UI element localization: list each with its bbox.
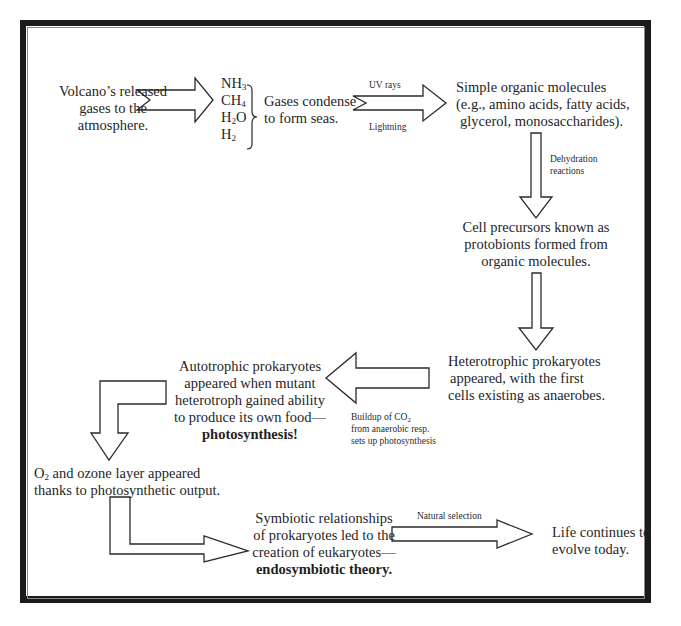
brace-icon [245, 84, 259, 150]
endosymbiotic-emphasis: endosymbiotic theory. [256, 561, 392, 577]
autotrophs-line-1: Autotrophic prokaryotes [170, 358, 330, 375]
life-line-2: evolve today. [552, 541, 650, 558]
gas-h2: H2 [221, 126, 246, 143]
dehydration-line-2: reactions [550, 165, 598, 177]
oxygen-line-2: thanks to photosynthetic output. [34, 482, 220, 499]
label-lightning: Lightning [369, 121, 406, 133]
organic-line-3: glycerol, monosaccharides). [456, 113, 630, 130]
co2-line-3: sets up photosynthesis [351, 435, 436, 447]
heterotrophs-line-1: Heterotrophic prokaryotes [448, 353, 605, 370]
node-condense: Gases condense to form seas. [264, 93, 356, 127]
volcano-line-1: Volcano’s released [58, 83, 168, 100]
node-protobionts: Cell precursors known as protobionts for… [456, 219, 616, 270]
volcano-line-2: gases to the [58, 100, 168, 117]
co2-line-2: from anaerobic resp. [351, 423, 436, 435]
symbiotic-line-3: creation of eukaryotes— [244, 544, 404, 561]
arrow-autotrophs-to-oxygen [91, 381, 166, 460]
node-heterotrophs: Heterotrophic prokaryotes appeared, with… [448, 353, 605, 404]
node-gas-list: NH3 CH4 H2O H2 [221, 75, 246, 143]
autotrophs-line-3: heterotroph gained ability [170, 392, 330, 409]
volcano-line-3: atmosphere. [58, 117, 168, 134]
gas-ch4: CH4 [221, 92, 246, 109]
arrow-protobionts-down [519, 273, 553, 350]
autotrophs-line-2: appeared when mutant [170, 375, 330, 392]
symbiotic-line-2: of prokaryotes led to the [244, 527, 404, 544]
node-symbiotic: Symbiotic relationships of prokaryotes l… [244, 510, 404, 578]
condense-line-2: to form seas. [264, 110, 356, 127]
organic-line-2: (e.g., amino acids, fatty acids, [456, 96, 630, 113]
label-uv-rays: UV rays [369, 79, 401, 91]
oxygen-line-1: O2 and ozone layer appeared [34, 465, 220, 482]
protobionts-line-3: organic molecules. [456, 253, 616, 270]
node-organic-molecules: Simple organic molecules (e.g., amino ac… [456, 79, 630, 130]
photosynthesis-emphasis: photosynthesis! [202, 426, 298, 442]
organic-line-1: Simple organic molecules [456, 79, 630, 96]
dehydration-line-1: Dehydration [550, 153, 598, 165]
autotrophs-line-4: to produce its own food— [170, 409, 330, 426]
protobionts-line-1: Cell precursors known as [456, 219, 616, 236]
symbiotic-line-1: Symbiotic relationships [244, 510, 404, 527]
arrow-oxygen-to-symbiotic [110, 497, 248, 562]
condense-line-1: Gases condense [264, 93, 356, 110]
arrow-dehydration-down [520, 133, 552, 218]
label-co2-buildup: Buildup of CO2 from anaerobic resp. sets… [351, 411, 436, 447]
heterotrophs-line-2: appeared, with the first [448, 370, 605, 387]
label-natural-selection: Natural selection [417, 510, 482, 522]
node-volcano: Volcano’s released gases to the atmosphe… [58, 83, 168, 134]
co2-line-1: Buildup of CO2 [351, 411, 436, 423]
gas-nh3: NH3 [221, 75, 246, 92]
arrow-natural-selection [392, 520, 532, 548]
heterotrophs-line-3: cells existing as anaerobes. [448, 387, 605, 404]
label-dehydration: Dehydration reactions [550, 153, 598, 177]
node-oxygen-ozone: O2 and ozone layer appeared thanks to ph… [34, 465, 220, 499]
protobionts-line-2: protobionts formed from [456, 236, 616, 253]
node-life-continues: Life continues to evolve today. [552, 524, 650, 558]
gas-h2o: H2O [221, 109, 246, 126]
life-line-1: Life continues to [552, 524, 650, 541]
node-autotrophs: Autotrophic prokaryotes appeared when mu… [170, 358, 330, 443]
arrow-heterotrophs-to-autotrophs [326, 353, 429, 403]
